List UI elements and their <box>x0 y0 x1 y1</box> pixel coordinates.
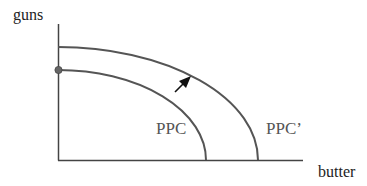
ppc-prime-curve <box>58 47 258 160</box>
ppc-diagram: guns butter PPC PPC’ <box>0 0 367 186</box>
ppc-diagram-svg <box>0 0 367 186</box>
x-axis-label: butter <box>318 163 355 181</box>
ppc-prime-label: PPC’ <box>266 119 302 139</box>
shift-arrow-icon <box>175 76 191 92</box>
ppc-label: PPC <box>156 119 186 139</box>
point-marker-icon <box>55 66 62 73</box>
y-axis-label: guns <box>13 6 43 24</box>
